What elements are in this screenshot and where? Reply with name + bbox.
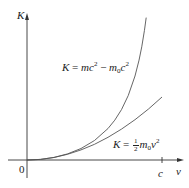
label-sup: 2 bbox=[156, 137, 160, 145]
plot-area bbox=[0, 0, 189, 188]
x-axis-arrow-icon bbox=[177, 158, 184, 162]
label-fraction: 12 bbox=[133, 138, 139, 153]
label-minus: − bbox=[97, 61, 109, 73]
label-m: m bbox=[109, 61, 117, 73]
x-tick-label-c: c bbox=[158, 168, 163, 179]
label-eq: = bbox=[69, 61, 81, 73]
y-axis-label: K bbox=[17, 10, 24, 21]
classical-curve-label: K = 12m0v2 bbox=[113, 138, 159, 153]
y-axis-arrow-icon bbox=[25, 13, 29, 20]
fraction-denominator: 2 bbox=[133, 146, 139, 153]
relativistic-curve-label: K = mc2 − m0c2 bbox=[62, 61, 129, 75]
label-eq: = bbox=[120, 138, 132, 150]
kinetic-energy-diagram: K 0 c v K = mc2 − m0c2 K = 12m0v2 bbox=[0, 0, 189, 188]
x-axis-label: v bbox=[176, 166, 181, 177]
label-mc: mc bbox=[81, 61, 94, 73]
origin-label: 0 bbox=[19, 164, 25, 175]
label-m: m bbox=[140, 138, 148, 150]
label-sup: 2 bbox=[125, 60, 129, 68]
